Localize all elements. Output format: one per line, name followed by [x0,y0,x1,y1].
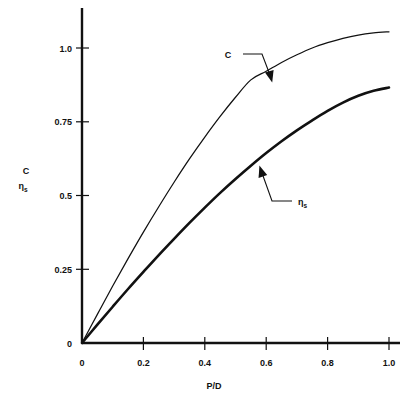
y-axis-title-subscript: s [24,186,28,193]
x-tick-label-1.0: 1.0 [383,358,396,368]
y-tick-label-1.0: 1.0 [59,44,72,54]
x-tick-label-0.6: 0.6 [260,358,273,368]
y-tick-label-0.5: 0.5 [59,191,72,201]
y-axis-title-line1: C [23,166,30,176]
y-tick-label-0: 0 [67,339,72,349]
line-chart-plot: 1.0 0.75 0.5 0.25 0 0 0.2 0.4 0.6 0.8 1.… [0,0,410,394]
eta-s-annotation-subscript: s [304,202,308,209]
x-tick-label-0.8: 0.8 [321,358,334,368]
x-tick-label-0.4: 0.4 [199,358,212,368]
x-tick-label-0: 0 [79,358,84,368]
chart-container: 1.0 0.75 0.5 0.25 0 0 0.2 0.4 0.6 0.8 1.… [0,0,410,394]
x-axis-title: P/D [206,381,222,391]
c-annotation-label: C [225,50,232,60]
x-tick-label-0.2: 0.2 [137,358,150,368]
y-tick-label-0.25: 0.25 [54,265,72,275]
y-tick-label-0.75: 0.75 [54,117,72,127]
